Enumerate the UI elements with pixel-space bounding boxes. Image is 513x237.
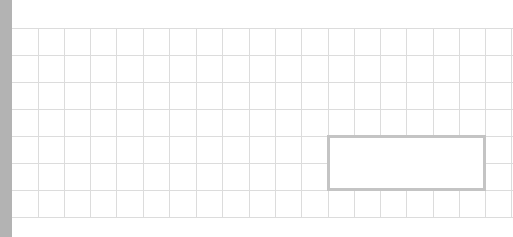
grid-vertical-line (301, 28, 302, 217)
grid-vertical-line (38, 28, 39, 217)
grid-vertical-line (64, 28, 65, 217)
grid-horizontal-line (12, 28, 513, 29)
left-edge-strip (0, 0, 12, 237)
grid-horizontal-line (12, 217, 513, 218)
grid-vertical-line (196, 28, 197, 217)
grid-horizontal-line (12, 55, 513, 56)
grid-horizontal-line (12, 82, 513, 83)
grid-vertical-line (116, 28, 117, 217)
grid-vertical-line (169, 28, 170, 217)
grid-vertical-line (249, 28, 250, 217)
grid-vertical-line (275, 28, 276, 217)
grid-vertical-line (143, 28, 144, 217)
grid-vertical-line (90, 28, 91, 217)
grid-vertical-line (511, 28, 512, 217)
highlight-rectangle (327, 135, 486, 191)
grid-horizontal-line (12, 109, 513, 110)
grid-vertical-line (222, 28, 223, 217)
